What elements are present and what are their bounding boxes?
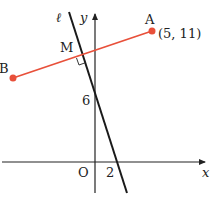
- point-a-label: A: [144, 12, 155, 27]
- point-a-coords: (5, 11): [158, 26, 201, 41]
- coordinate-diagram: ℓ y M A (5, 11) B 6 O 2 x: [0, 0, 214, 202]
- segment-ab: [13, 31, 152, 78]
- line-l-label: ℓ: [56, 10, 62, 25]
- point-a: [149, 28, 156, 35]
- x-axis-label: x: [202, 165, 210, 180]
- origin-label: O: [78, 165, 89, 180]
- point-b: [10, 75, 17, 82]
- y-intercept-label: 6: [82, 93, 90, 108]
- x-intercept-label: 2: [106, 165, 114, 180]
- midpoint-m-label: M: [60, 40, 73, 55]
- point-b-label: B: [0, 61, 9, 76]
- y-axis-label: y: [79, 10, 88, 25]
